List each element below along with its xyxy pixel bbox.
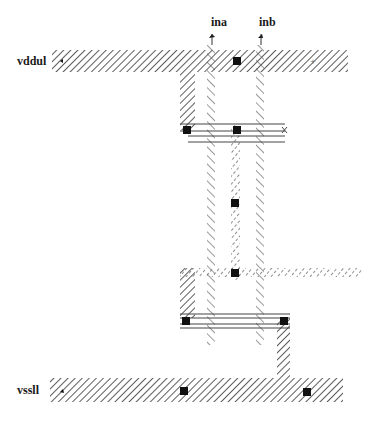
svg-text:+: + — [310, 58, 316, 66]
contact-p-left — [183, 126, 191, 134]
contact-mid — [231, 199, 239, 207]
contact-n-right — [280, 317, 288, 325]
poly-inb — [256, 34, 264, 345]
vss-rail — [50, 378, 343, 402]
contact-vdd — [233, 57, 241, 65]
vdd-rail: + — [52, 50, 348, 72]
contact-vss-1 — [180, 387, 188, 395]
contact-vss-2 — [303, 388, 311, 396]
contacts — [180, 57, 311, 396]
contact-n-left — [182, 317, 190, 325]
contact-p-mid — [233, 126, 241, 134]
metal-mid-strap — [180, 268, 362, 277]
layout-diagram: + — [0, 0, 377, 425]
metal-left-drop — [180, 268, 195, 318]
contact-n-top — [231, 269, 239, 277]
metal-vss-drop — [277, 318, 290, 378]
poly-ina — [207, 34, 215, 345]
n-diffusion — [180, 314, 290, 328]
metal-vdd-drop — [180, 72, 195, 130]
